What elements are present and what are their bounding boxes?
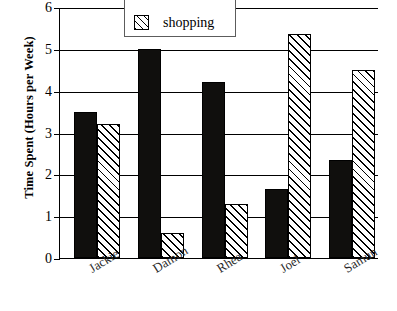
- y-tick-mark: [54, 50, 60, 51]
- y-axis-title: Time Spent (Hours per Week): [22, 0, 37, 243]
- y-tick-label: 0: [45, 251, 52, 267]
- legend-swatch-hatched-icon: [134, 15, 149, 30]
- bar-jackie-reading: [74, 112, 97, 258]
- y-tick-mark: [54, 8, 60, 9]
- y-tick-mark: [54, 134, 60, 135]
- gridline: [60, 50, 378, 51]
- y-tick-mark: [54, 92, 60, 93]
- bar-samun-reading: [329, 160, 352, 258]
- y-tick-mark: [54, 259, 60, 260]
- y-tick-label: 1: [45, 209, 52, 225]
- y-tick-label: 6: [45, 0, 52, 16]
- bar-chart: Time Spent (Hours per Week) 0123456 shop…: [0, 0, 397, 311]
- bar-joel-reading: [265, 189, 288, 258]
- legend-item-shopping: shopping: [125, 12, 235, 33]
- y-tick-mark: [54, 175, 60, 176]
- y-tick-label: 2: [45, 167, 52, 183]
- y-tick-label: 3: [45, 126, 52, 142]
- bar-samun-shopping: [352, 70, 375, 258]
- bar-joel-shopping: [288, 34, 311, 258]
- plot-area: 0123456 shopping: [59, 8, 378, 259]
- y-tick-mark: [54, 217, 60, 218]
- bar-rhea-reading: [202, 82, 225, 258]
- bar-damon-reading: [138, 49, 161, 258]
- legend: shopping: [124, 0, 236, 37]
- bar-jackie-shopping: [97, 124, 120, 258]
- legend-label: shopping: [163, 15, 214, 31]
- y-tick-label: 4: [45, 84, 52, 100]
- y-tick-label: 5: [45, 42, 52, 58]
